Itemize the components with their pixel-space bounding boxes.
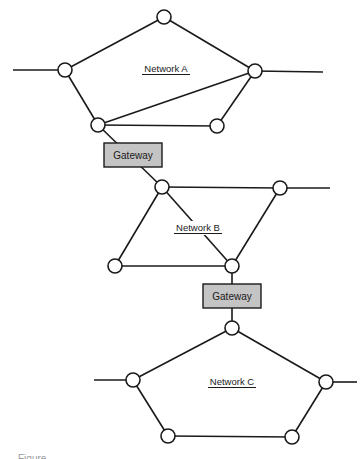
node-c3-icon bbox=[319, 375, 333, 389]
node-c1-icon bbox=[225, 321, 239, 335]
node-b3-icon bbox=[108, 259, 122, 273]
gateway-2: Gateway bbox=[203, 284, 261, 308]
network-label-c: Network C bbox=[205, 375, 259, 389]
labels-layer: Network ANetwork BNetwork C bbox=[139, 62, 259, 389]
network-label-b: Network B bbox=[171, 221, 225, 235]
link-a5-a3 bbox=[217, 71, 255, 126]
node-a5-icon bbox=[210, 119, 224, 133]
link-c1-c3 bbox=[232, 328, 326, 382]
link-b2-b4 bbox=[232, 188, 280, 266]
node-c2-icon bbox=[126, 373, 140, 387]
link-a4-a3 bbox=[98, 71, 255, 125]
node-a1-icon bbox=[157, 10, 171, 24]
link-c5-c3 bbox=[292, 382, 326, 437]
external-link-a3 bbox=[255, 71, 323, 72]
link-c1-c2 bbox=[133, 328, 232, 380]
figure-caption: Figure bbox=[18, 452, 46, 459]
node-a3-icon bbox=[248, 64, 262, 78]
node-c5-icon bbox=[285, 430, 299, 444]
node-a4-icon bbox=[91, 118, 105, 132]
gateway-label: Gateway bbox=[113, 150, 152, 161]
link-b1-b3 bbox=[115, 187, 162, 266]
gateway-1: Gateway bbox=[104, 143, 162, 167]
network-label-text: Network C bbox=[210, 376, 254, 387]
link-a2-a4 bbox=[65, 70, 98, 125]
node-c4-icon bbox=[161, 429, 175, 443]
link-c4-c5 bbox=[168, 436, 292, 437]
node-b1-icon bbox=[155, 180, 169, 194]
link-c2-c4 bbox=[133, 380, 168, 436]
network-diagram: Network ANetwork BNetwork C GatewayGatew… bbox=[0, 0, 364, 459]
gateway-label: Gateway bbox=[212, 291, 251, 302]
network-label-text: Network A bbox=[144, 63, 188, 74]
node-a2-icon bbox=[58, 63, 72, 77]
link-a4-a5 bbox=[98, 125, 217, 126]
node-b2-icon bbox=[273, 181, 287, 195]
network-label-text: Network B bbox=[176, 222, 220, 233]
node-b4-icon bbox=[225, 259, 239, 273]
link-b1-b2 bbox=[162, 187, 280, 188]
network-label-a: Network A bbox=[139, 62, 193, 76]
